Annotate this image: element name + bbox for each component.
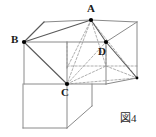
pyramid-edge-a-d — [91, 20, 106, 42]
vertex-dot-b — [22, 40, 26, 44]
edge-top-back — [44, 20, 91, 22]
vertex-dot-a — [89, 18, 93, 22]
vertex-label-c: C — [61, 87, 69, 98]
pyramid-edge-group — [24, 20, 137, 84]
net-flap-diagonal — [67, 106, 92, 128]
vertex-label-b: B — [11, 34, 18, 45]
pyramid-edge-d-corner — [106, 42, 137, 78]
pyramid-edge-a-b — [24, 20, 91, 42]
vertex-dot-d — [104, 40, 108, 44]
hidden-edge-a-to-mid-right — [91, 20, 106, 66]
figure-caption: 図4 — [120, 113, 137, 124]
edge-top-right — [91, 20, 137, 22]
edge-right-face-lower-diagonal — [106, 78, 137, 84]
vertex-label-a: A — [87, 3, 95, 14]
hidden-edge-c-to-far-right — [67, 78, 137, 84]
edge-right-face-upper-diagonal — [106, 22, 137, 42]
vertex-dot-far-right — [136, 77, 139, 80]
pyramid-edge-b-c — [24, 42, 67, 84]
vertex-label-d: D — [98, 46, 106, 57]
figure-container: A B C D 図4 — [0, 0, 156, 137]
vertex-dot-group — [22, 18, 139, 86]
